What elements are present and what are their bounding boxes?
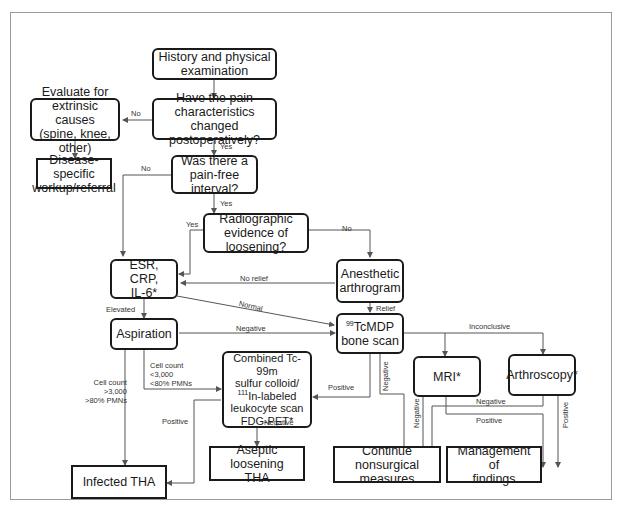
node-anesthetic-arthrogram: Anesthetic arthrogram: [336, 259, 404, 303]
label-no-relief: No relief: [240, 274, 268, 283]
node-pain-changed: Have the pain characteristics changed po…: [152, 98, 277, 140]
node-aseptic-loosening: Aseptic loosening THA: [209, 446, 305, 481]
node-history: History and physical examination: [152, 48, 277, 80]
label-inconclusive: Inconclusive: [469, 322, 510, 331]
label-bone-negative: Negative: [381, 361, 390, 391]
label-arthro-negative: Negative: [476, 397, 506, 406]
label-relief: Relief: [376, 304, 395, 313]
node-pain-free-interval: Was there a pain-free interval?: [171, 155, 258, 194]
node-radiographic-evidence: Radiographic evidence of loosening?: [203, 213, 309, 253]
node-management-findings: Management of findings: [446, 446, 542, 483]
flow-edges: [0, 0, 624, 513]
label-radiographic-yes: Yes: [186, 220, 198, 229]
node-disease-specific: Disease-specific workup/referral: [36, 158, 112, 189]
combined-scan-text: Combined Tc-99m sulfur colloid/111In-lab…: [227, 352, 307, 427]
label-elevated: Elevated: [106, 305, 135, 314]
node-mri: MRI*: [413, 356, 481, 397]
label-combined-positive: Positive: [162, 417, 188, 426]
node-continue-nonsurgical: Continue nonsurgical measures: [333, 446, 441, 483]
label-arthro-positive: Positive: [561, 402, 570, 428]
label-combined-negative: Negative: [264, 418, 294, 427]
node-esr-crp-il6: ESR, CRP, IL-6*: [110, 259, 178, 299]
node-extrinsic-causes: Evaluate for extrinsic causes (spine, kn…: [30, 98, 120, 141]
label-pain-free-no: No: [141, 164, 151, 173]
label-pain-changed-no: No: [131, 109, 141, 118]
node-aspiration: Aspiration: [110, 318, 178, 350]
label-cell-count-high: Cell count >3,000 >80% PMNs: [85, 378, 127, 405]
node-arthroscopy: Arthroscopy*: [508, 354, 576, 396]
bone-scan-text: 99TcMDP bone scan: [341, 320, 399, 348]
label-cell-count-low: Cell count <3,000 <80% PMNs: [150, 361, 192, 388]
label-pain-free-yes: Yes: [220, 199, 232, 208]
node-combined-scan: Combined Tc-99m sulfur colloid/111In-lab…: [222, 351, 312, 428]
label-mri-positive: Positive: [476, 416, 502, 425]
label-aspiration-negative: Negative: [236, 324, 266, 333]
node-infected-tha: Infected THA: [71, 465, 167, 499]
node-bone-scan: 99TcMDP bone scan: [336, 313, 404, 354]
label-bone-positive: Positive: [328, 383, 354, 392]
label-pain-changed-yes: Yes: [220, 142, 232, 151]
label-radiographic-no: No: [342, 224, 352, 233]
label-mri-negative: Negative: [412, 398, 421, 428]
